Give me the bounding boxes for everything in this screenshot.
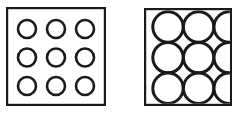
small-circle-r2c1 bbox=[18, 49, 36, 67]
small-circle-r1c1 bbox=[18, 20, 36, 38]
large-circle-r1c2 bbox=[183, 12, 213, 42]
large-circle-r2c2 bbox=[183, 42, 213, 72]
large-circle-r3c2 bbox=[183, 73, 213, 103]
small-circle-r2c2 bbox=[47, 49, 65, 67]
large-circle-r3c1 bbox=[153, 73, 183, 103]
small-circles-group bbox=[18, 20, 94, 95]
small-circle-r1c3 bbox=[76, 20, 94, 38]
large-circle-r2c1 bbox=[153, 42, 183, 72]
small-circle-r2c3 bbox=[76, 49, 94, 67]
small-circle-r3c1 bbox=[18, 77, 36, 95]
large-circles-group bbox=[153, 12, 234, 104]
small-circle-r1c2 bbox=[47, 20, 65, 38]
large-circles-square-panel bbox=[145, 9, 234, 105]
small-circle-r3c2 bbox=[47, 77, 65, 95]
small-circles-square-panel bbox=[7, 8, 105, 105]
small-circle-r3c3 bbox=[76, 77, 94, 95]
large-circle-r1c1 bbox=[153, 12, 183, 42]
figure-canvas bbox=[0, 0, 234, 117]
